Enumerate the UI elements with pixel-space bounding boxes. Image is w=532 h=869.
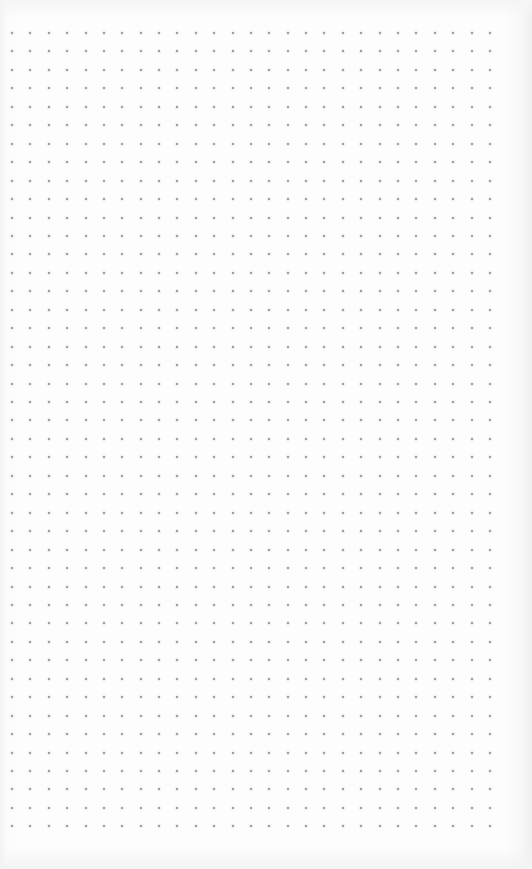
grid-dot	[140, 419, 142, 421]
grid-dot	[29, 124, 31, 126]
grid-dot	[415, 825, 417, 827]
grid-dot	[452, 475, 454, 477]
grid-dot	[268, 715, 270, 717]
grid-dot	[379, 512, 381, 514]
grid-dot	[287, 622, 289, 624]
grid-dot	[176, 604, 178, 606]
grid-dot	[103, 235, 105, 237]
grid-dot	[66, 32, 68, 34]
grid-dot	[48, 180, 50, 182]
grid-dot	[121, 586, 123, 588]
grid-dot	[323, 641, 325, 643]
grid-dot	[11, 346, 13, 348]
grid-dot	[121, 253, 123, 255]
grid-dot	[323, 567, 325, 569]
grid-dot	[360, 456, 362, 458]
grid-dot	[29, 272, 31, 274]
grid-dot	[379, 456, 381, 458]
grid-dot	[489, 696, 491, 698]
grid-dot	[213, 530, 215, 532]
grid-dot	[360, 493, 362, 495]
grid-dot	[305, 180, 307, 182]
grid-dot	[11, 161, 13, 163]
grid-dot	[305, 807, 307, 809]
grid-dot	[397, 253, 399, 255]
grid-dot	[305, 272, 307, 274]
grid-dot	[213, 456, 215, 458]
grid-dot	[305, 217, 307, 219]
grid-dot	[29, 143, 31, 145]
grid-dot	[158, 180, 160, 182]
grid-dot	[323, 309, 325, 311]
grid-dot	[305, 770, 307, 772]
grid-dot	[85, 530, 87, 532]
grid-dot	[268, 825, 270, 827]
grid-dot	[323, 346, 325, 348]
grid-dot	[103, 493, 105, 495]
grid-dot	[342, 530, 344, 532]
grid-dot	[268, 235, 270, 237]
grid-dot	[287, 696, 289, 698]
grid-dot	[268, 586, 270, 588]
grid-dot	[140, 456, 142, 458]
grid-dot	[213, 198, 215, 200]
grid-dot	[176, 678, 178, 680]
grid-dot	[323, 604, 325, 606]
grid-dot	[471, 253, 473, 255]
grid-dot	[48, 715, 50, 717]
grid-dot	[48, 438, 50, 440]
grid-dot	[29, 567, 31, 569]
grid-dot	[379, 290, 381, 292]
grid-dot	[29, 309, 31, 311]
grid-dot	[48, 401, 50, 403]
grid-dot	[471, 512, 473, 514]
grid-dot	[103, 788, 105, 790]
grid-dot	[452, 217, 454, 219]
grid-dot	[85, 198, 87, 200]
grid-dot	[379, 198, 381, 200]
grid-dot	[176, 198, 178, 200]
grid-dot	[195, 235, 197, 237]
grid-dot	[195, 383, 197, 385]
grid-dot	[287, 456, 289, 458]
grid-dot	[48, 641, 50, 643]
grid-dot	[103, 419, 105, 421]
grid-dot	[305, 678, 307, 680]
grid-dot	[213, 106, 215, 108]
grid-dot	[121, 696, 123, 698]
grid-dot	[232, 493, 234, 495]
grid-dot	[489, 549, 491, 551]
grid-dot	[268, 327, 270, 329]
grid-dot	[342, 272, 344, 274]
grid-dot	[176, 235, 178, 237]
grid-dot	[452, 419, 454, 421]
grid-dot	[48, 825, 50, 827]
grid-dot	[379, 364, 381, 366]
grid-dot	[305, 401, 307, 403]
grid-dot	[452, 124, 454, 126]
grid-dot	[121, 567, 123, 569]
grid-dot	[471, 198, 473, 200]
grid-dot	[489, 733, 491, 735]
grid-dot	[415, 788, 417, 790]
grid-dot	[489, 401, 491, 403]
grid-dot	[232, 604, 234, 606]
grid-dot	[268, 50, 270, 52]
grid-dot	[360, 567, 362, 569]
grid-dot	[323, 512, 325, 514]
grid-dot	[232, 290, 234, 292]
grid-dot	[48, 788, 50, 790]
grid-dot	[66, 106, 68, 108]
grid-dot	[29, 512, 31, 514]
grid-dot	[434, 733, 436, 735]
grid-dot	[287, 198, 289, 200]
grid-dot	[103, 364, 105, 366]
grid-dot	[11, 69, 13, 71]
grid-dot	[176, 50, 178, 52]
grid-dot	[140, 180, 142, 182]
grid-dot	[140, 752, 142, 754]
grid-dot	[29, 715, 31, 717]
grid-dot	[323, 383, 325, 385]
grid-dot	[397, 788, 399, 790]
grid-dot	[379, 87, 381, 89]
